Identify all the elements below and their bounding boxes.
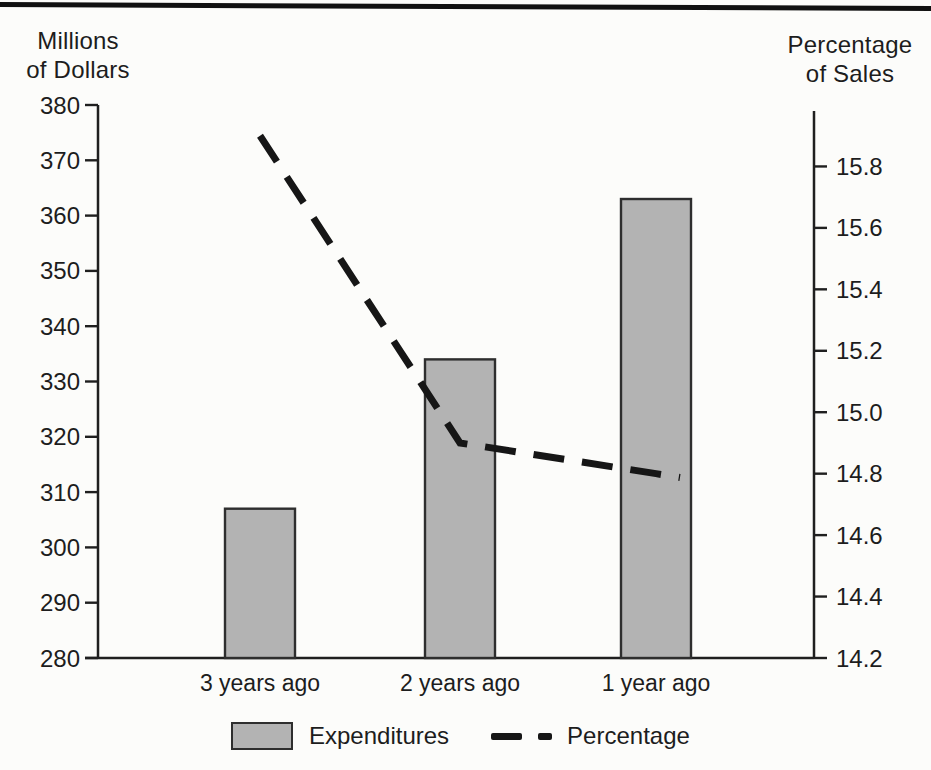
legend-label-expenditures: Expenditures — [309, 722, 449, 750]
left-axis-tick-label: 370 — [40, 147, 80, 174]
right-axis-tick-label: 14.8 — [836, 460, 883, 487]
left-axis-tick-label: 360 — [40, 202, 80, 229]
left-axis-tick-label: 350 — [40, 257, 80, 284]
left-axis-tick-label: 300 — [40, 534, 80, 561]
left-axis-title: Millions of Dollars — [18, 26, 138, 84]
left-axis-tick-label: 310 — [40, 479, 80, 506]
right-axis-title: Percentage of Sales — [781, 30, 919, 88]
right-axis-tick-label: 15.0 — [836, 399, 883, 426]
expenditures-bar — [621, 199, 691, 658]
right-axis-tick-label: 15.6 — [836, 214, 883, 241]
x-category-label: 3 years ago — [200, 670, 320, 696]
dashed-line-swatch — [491, 733, 552, 740]
left-axis-tick-label: 330 — [40, 368, 80, 395]
dash-gap — [522, 733, 538, 740]
right-axis-tick-label: 14.4 — [836, 583, 883, 610]
right-axis-tick-label: 15.8 — [836, 153, 883, 180]
left-axis-tick-label: 280 — [40, 645, 80, 672]
dash-long-icon — [491, 733, 522, 740]
x-category-label: 1 year ago — [602, 670, 711, 696]
expenditures-swatch — [231, 722, 293, 750]
right-axis-tick-label: 15.4 — [836, 276, 883, 303]
dash-short-icon — [538, 733, 552, 740]
right-axis-tick-label: 14.6 — [836, 522, 883, 549]
right-axis-title-line2: of Sales — [806, 60, 894, 87]
left-axis-tick-label: 290 — [40, 589, 80, 616]
expenditures-bar — [225, 509, 295, 658]
legend-label-percentage: Percentage — [567, 722, 690, 750]
left-axis-tick-label: 380 — [40, 92, 80, 119]
x-category-label: 2 years ago — [400, 670, 520, 696]
left-axis-title-line2: of Dollars — [26, 56, 129, 83]
right-axis-tick-label: 15.2 — [836, 337, 883, 364]
right-axis-title-line1: Percentage — [788, 31, 913, 58]
chart-legend: Expenditures Percentage — [231, 722, 690, 750]
right-axis-tick-label: 14.2 — [836, 645, 883, 672]
left-axis-tick-label: 340 — [40, 313, 80, 340]
left-axis-title-line1: Millions — [37, 27, 119, 54]
left-axis-tick-label: 320 — [40, 423, 80, 450]
